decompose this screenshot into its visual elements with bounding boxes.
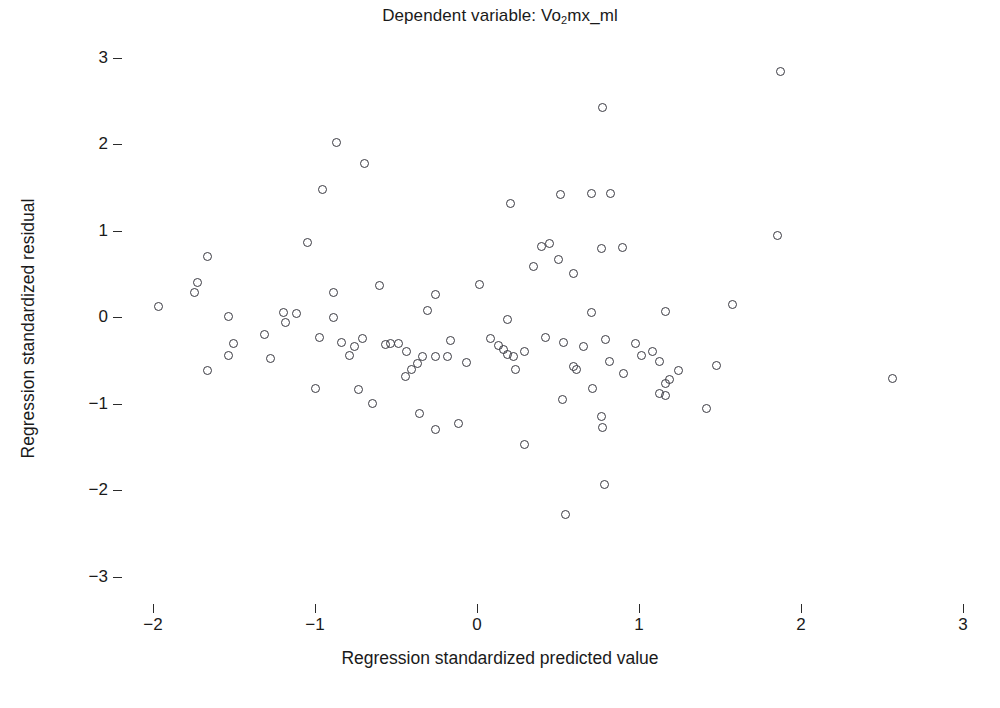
data-point xyxy=(266,354,275,363)
data-point xyxy=(888,374,897,383)
data-point xyxy=(229,339,238,348)
data-point xyxy=(618,243,627,252)
data-point xyxy=(401,372,410,381)
data-point xyxy=(661,307,670,316)
data-point xyxy=(368,399,377,408)
x-tick-label: 0 xyxy=(457,615,497,635)
y-tick-label: −2 xyxy=(68,480,108,500)
data-point xyxy=(462,358,471,367)
data-point xyxy=(503,315,512,324)
data-point xyxy=(520,440,529,449)
plot-area: 3210−1−2−3 −2−10123 xyxy=(0,0,1000,708)
data-point xyxy=(728,300,737,309)
data-point xyxy=(601,335,610,344)
data-point xyxy=(554,255,563,264)
data-point xyxy=(605,357,614,366)
y-tick-label: −1 xyxy=(68,394,108,414)
data-point xyxy=(311,384,320,393)
data-point xyxy=(556,190,565,199)
data-point xyxy=(446,336,455,345)
data-point xyxy=(572,365,581,374)
y-tick-mark xyxy=(113,58,122,59)
scatterplot-figure: Dependent variable: Vo2mx_ml 3210−1−2−3 … xyxy=(0,0,1000,708)
data-point xyxy=(545,239,554,248)
data-point xyxy=(631,339,640,348)
data-point xyxy=(619,369,628,378)
y-tick-label: 3 xyxy=(68,48,108,68)
data-point xyxy=(345,351,354,360)
data-point xyxy=(655,357,664,366)
data-point xyxy=(475,280,484,289)
data-point xyxy=(203,366,212,375)
y-tick-mark xyxy=(113,577,122,578)
y-tick-mark xyxy=(113,231,122,232)
x-tick-label: 2 xyxy=(781,615,821,635)
data-point xyxy=(529,262,538,271)
data-point xyxy=(190,288,199,297)
x-tick-label: −1 xyxy=(295,615,335,635)
y-tick-mark xyxy=(113,404,122,405)
x-tick-mark xyxy=(801,604,802,613)
data-point xyxy=(661,379,670,388)
data-point xyxy=(520,347,529,356)
data-point xyxy=(303,238,312,247)
data-point xyxy=(598,103,607,112)
data-point xyxy=(648,347,657,356)
data-point xyxy=(413,359,422,368)
data-point xyxy=(224,312,233,321)
data-point xyxy=(702,404,711,413)
x-axis-label: Regression standardized predicted value xyxy=(0,648,1000,669)
data-point xyxy=(597,244,606,253)
data-point xyxy=(541,333,550,342)
data-point xyxy=(776,67,785,76)
x-tick-label: 1 xyxy=(619,615,659,635)
x-tick-mark xyxy=(477,604,478,613)
data-point xyxy=(587,189,596,198)
data-point xyxy=(318,185,327,194)
data-point xyxy=(600,480,609,489)
data-point xyxy=(260,330,269,339)
data-point xyxy=(559,338,568,347)
data-point xyxy=(394,339,403,348)
data-point xyxy=(360,159,369,168)
data-point xyxy=(203,252,212,261)
data-point xyxy=(315,333,324,342)
data-point xyxy=(597,412,606,421)
data-point xyxy=(569,269,578,278)
y-tick-mark xyxy=(113,144,122,145)
data-point xyxy=(402,347,411,356)
y-tick-mark xyxy=(113,317,122,318)
data-point xyxy=(637,351,646,360)
data-point xyxy=(375,281,384,290)
data-point xyxy=(561,510,570,519)
y-axis-label: Regression standardized residual xyxy=(18,129,39,529)
data-point xyxy=(329,288,338,297)
data-point xyxy=(511,365,520,374)
data-point xyxy=(332,138,341,147)
data-point xyxy=(423,306,432,315)
data-point xyxy=(606,189,615,198)
x-tick-mark xyxy=(963,604,964,613)
data-point xyxy=(279,308,288,317)
y-tick-label: −3 xyxy=(68,567,108,587)
data-point xyxy=(579,342,588,351)
y-tick-label: 0 xyxy=(68,307,108,327)
data-point xyxy=(454,419,463,428)
data-point xyxy=(193,278,202,287)
data-point xyxy=(329,313,338,322)
data-point xyxy=(674,366,683,375)
data-point xyxy=(292,309,301,318)
data-point xyxy=(154,302,163,311)
data-point xyxy=(224,351,233,360)
data-point xyxy=(588,384,597,393)
data-point xyxy=(509,352,518,361)
x-tick-mark xyxy=(639,604,640,613)
x-tick-mark xyxy=(153,604,154,613)
data-point xyxy=(443,352,452,361)
data-point xyxy=(354,385,363,394)
data-point xyxy=(598,423,607,432)
data-point xyxy=(431,352,440,361)
y-tick-label: 2 xyxy=(68,134,108,154)
y-tick-mark xyxy=(113,490,122,491)
x-tick-mark xyxy=(315,604,316,613)
